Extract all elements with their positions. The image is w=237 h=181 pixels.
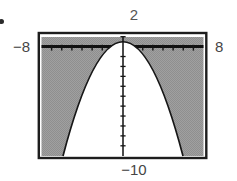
label-xmin: −8	[6, 39, 30, 55]
label-ymax: 2	[126, 7, 142, 23]
figure-canvas: 2 −8 8 −10	[0, 0, 237, 181]
graph-plot	[0, 0, 237, 181]
label-xmax: 8	[215, 39, 231, 55]
label-ymin: −10	[114, 162, 154, 178]
